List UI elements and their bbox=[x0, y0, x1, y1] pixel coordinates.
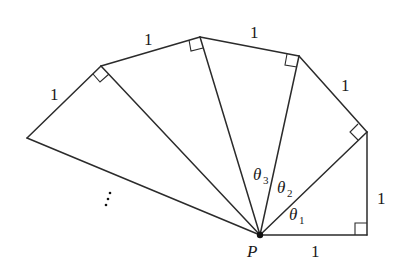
side-label: 1 bbox=[377, 189, 386, 208]
svg-text:1: 1 bbox=[299, 214, 305, 226]
radius-p-f bbox=[27, 138, 260, 235]
angle-label-theta1: θ 1 bbox=[289, 205, 305, 226]
edge-b-c bbox=[299, 56, 367, 132]
point-p-label: P bbox=[246, 242, 257, 261]
svg-text:θ: θ bbox=[277, 178, 285, 197]
svg-text:2: 2 bbox=[287, 187, 293, 199]
right-angle-icon bbox=[355, 223, 367, 235]
right-angle-icon bbox=[93, 74, 109, 82]
point-p-dot bbox=[257, 232, 263, 238]
angle-label-theta3: θ 3 bbox=[253, 165, 269, 186]
side-label: 1 bbox=[50, 85, 59, 104]
right-angle-icon bbox=[350, 124, 358, 140]
radius-p-e bbox=[101, 66, 260, 235]
svg-text:θ: θ bbox=[253, 165, 261, 184]
svg-text:3: 3 bbox=[263, 174, 269, 186]
edge-e-f bbox=[27, 66, 101, 138]
side-label: 1 bbox=[250, 23, 259, 42]
svg-text:θ: θ bbox=[289, 205, 297, 224]
radius-p-d bbox=[200, 37, 260, 235]
angle-label-theta2: θ 2 bbox=[277, 178, 293, 199]
radial-edges bbox=[27, 37, 367, 235]
spiral-diagram: P 1 1 1 1 1 1 θ 1 θ 2 θ 3 bbox=[0, 0, 407, 266]
side-label: 1 bbox=[311, 242, 320, 261]
side-label: 1 bbox=[341, 76, 350, 95]
side-label: 1 bbox=[144, 30, 153, 49]
continuation-ellipsis-icon bbox=[105, 192, 112, 207]
outer-edges bbox=[27, 37, 367, 235]
